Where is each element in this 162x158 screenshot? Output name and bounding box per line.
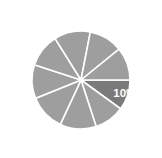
- pie-chart-figure: 10%: [0, 0, 162, 158]
- pie-slice-label: 10%: [113, 87, 136, 99]
- pie-chart-svg: 10%: [0, 0, 162, 158]
